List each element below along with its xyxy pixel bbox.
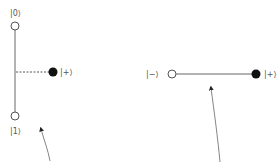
right-diagram: |−⟩ |+⟩ [146,70,277,163]
plus-state-label: |+⟩ [60,68,73,77]
minus-state-label: |−⟩ [146,70,159,79]
ket-0-label: |0⟩ [10,9,21,18]
minus-state-open-circle [168,70,176,78]
left-pointer-arrow [41,129,50,161]
ket-1-open-circle [11,112,19,120]
ket-0-open-circle [11,22,19,30]
ket-1-label: |1⟩ [10,127,21,136]
diagram-canvas: |0⟩ |1⟩ |+⟩ |−⟩ |+⟩ [0,0,279,167]
left-diagram: |0⟩ |1⟩ |+⟩ [10,9,73,161]
plus-state-label-right: |+⟩ [264,70,277,79]
right-pointer-arrow [211,88,220,162]
plus-state-filled-dot [49,68,58,77]
plus-state-filled-dot-right [252,70,261,79]
